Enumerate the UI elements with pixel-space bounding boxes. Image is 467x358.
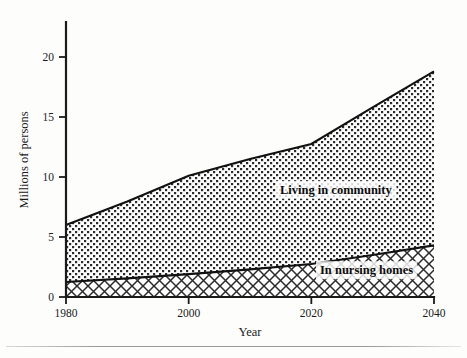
annotation-in-nursing-homes: In nursing homes — [316, 261, 417, 279]
annotation-label-in-nursing-homes: In nursing homes — [320, 263, 413, 277]
x-tick-label: 2040 — [423, 307, 446, 319]
y-axis-title: Millions of persons — [17, 111, 31, 208]
x-axis-ticks: 1980200020202040 — [55, 297, 446, 319]
area-chart: 05101520 1980200020202040 Millions of pe… — [0, 0, 467, 358]
x-axis-title: Year — [238, 325, 262, 339]
annotation-living-in-community: Living in community — [276, 181, 397, 199]
y-tick-label: 20 — [43, 51, 55, 63]
x-tick-label: 1980 — [55, 307, 78, 319]
x-tick-label: 2000 — [177, 307, 200, 319]
annotation-label-living-in-community: Living in community — [280, 183, 393, 197]
y-axis-ticks: 05101520 — [43, 51, 67, 303]
y-tick-label: 10 — [43, 171, 55, 183]
page-rule — [6, 346, 461, 347]
y-tick-label: 5 — [48, 231, 54, 243]
chart-container: 05101520 1980200020202040 Millions of pe… — [0, 0, 467, 358]
y-tick-label: 0 — [48, 291, 54, 303]
y-tick-label: 15 — [43, 111, 55, 123]
x-tick-label: 2020 — [300, 307, 323, 319]
